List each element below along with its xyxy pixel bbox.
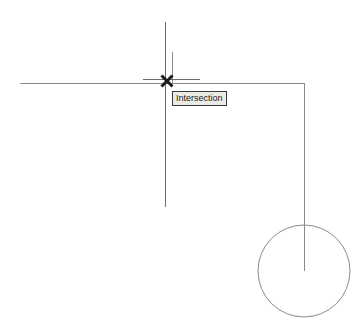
osnap-tooltip: Intersection <box>172 91 227 106</box>
crosshair-cursor <box>143 22 200 207</box>
intersection-snap-marker-icon <box>162 76 173 87</box>
cad-vector-layer <box>0 0 362 332</box>
cad-drawing-area[interactable]: Intersection <box>0 0 362 332</box>
